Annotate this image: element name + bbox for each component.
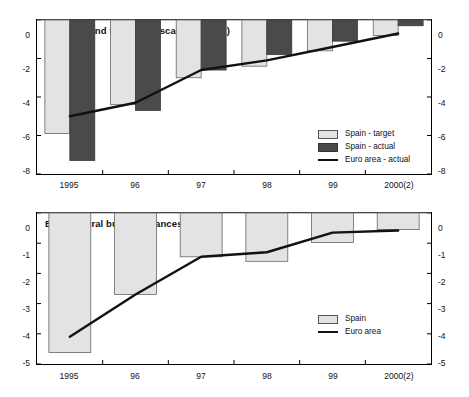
legend-swatch-spain-target: [318, 130, 338, 139]
panel-a-legend: Spain - target Spain - actual Euro area …: [318, 128, 410, 167]
legend-label-euro-area-actual: Euro area - actual: [345, 155, 410, 165]
legend-swatch-spain: [318, 315, 338, 324]
legend-item-spain-actual: Spain - actual: [318, 141, 410, 153]
legend-label-spain-target: Spain - target: [345, 129, 394, 139]
legend-swatch-euro-area-actual: [318, 156, 338, 165]
legend-label-spain: Spain: [345, 314, 366, 324]
chart-panel-a: A. Actual and targetted fiscal deficits …: [0, 0, 469, 200]
panel-b-legend: Spain Euro area: [318, 313, 381, 339]
legend-label-euro-area: Euro area: [345, 327, 381, 337]
chart-panel-b: B. Structural budget balances 0 -1 -2 -3…: [0, 197, 469, 397]
legend-item-euro-area: Euro area: [318, 326, 381, 338]
panel-a-plot-area: [0, 0, 469, 200]
legend-swatch-spain-actual: [318, 143, 338, 152]
panel-b-plot-area: [0, 197, 469, 397]
figure-container: A. Actual and targetted fiscal deficits …: [0, 0, 469, 397]
legend-item-spain-target: Spain - target: [318, 128, 410, 140]
legend-label-spain-actual: Spain - actual: [345, 142, 395, 152]
legend-item-spain: Spain: [318, 313, 381, 325]
legend-item-euro-area-actual: Euro area - actual: [318, 154, 410, 166]
legend-swatch-euro-area: [318, 328, 338, 337]
